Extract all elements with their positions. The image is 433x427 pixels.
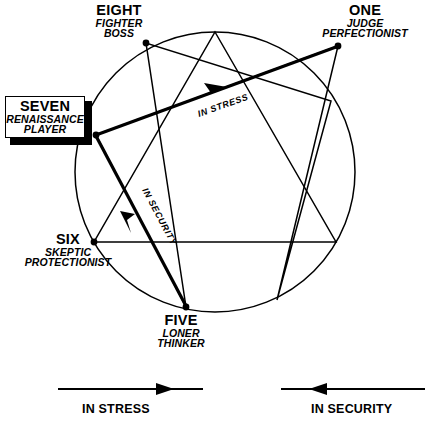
in-security-flow-label: IN SECURITY <box>140 186 179 247</box>
point-label-eight: EIGHT FIGHTER BOSS <box>64 3 174 39</box>
in-security-arrowhead <box>120 211 135 233</box>
enneagram-circle <box>75 32 355 312</box>
point-label-seven-box: SEVEN RENAISSANCE PLAYER <box>5 96 85 138</box>
point-seven-trait-2: PLAYER <box>24 124 66 135</box>
point-one-trait-2: PERFECTIONIST <box>300 28 430 39</box>
point-eight-trait-2: BOSS <box>64 28 174 39</box>
point-label-six: SIX SKEPTIC PROTECTIONIST <box>8 232 128 268</box>
point-five-number: FIVE <box>126 313 236 328</box>
point-eight-number: EIGHT <box>64 3 174 18</box>
point-label-five: FIVE LONER THINKER <box>126 313 236 349</box>
vertex-dot-five <box>183 304 190 311</box>
legend-stress-arrow <box>58 383 203 395</box>
legend-caption-security: IN SECURITY <box>311 402 392 416</box>
point-one-number: ONE <box>300 3 430 18</box>
vertex-dot-eight <box>143 40 150 47</box>
point-six-number: SIX <box>8 232 128 247</box>
enneagram-figure: IN STRESS IN SECURITY EIGHT <box>0 0 433 427</box>
vertex-dot-one <box>335 43 342 50</box>
point-five-trait-2: THINKER <box>126 338 236 349</box>
point-label-one: ONE JUDGE PERFECTIONIST <box>300 3 430 39</box>
enneagram-triangle <box>94 32 336 242</box>
enneagram-diagram: IN STRESS IN SECURITY <box>0 0 433 427</box>
enneagram-vertex-dots <box>91 40 342 311</box>
legend-security-arrow <box>281 383 425 395</box>
vertex-dot-seven <box>93 132 100 139</box>
legend-caption-stress: IN STRESS <box>82 402 150 416</box>
point-six-trait-2: PROTECTIONIST <box>8 257 128 268</box>
point-seven-number: SEVEN <box>20 99 70 114</box>
